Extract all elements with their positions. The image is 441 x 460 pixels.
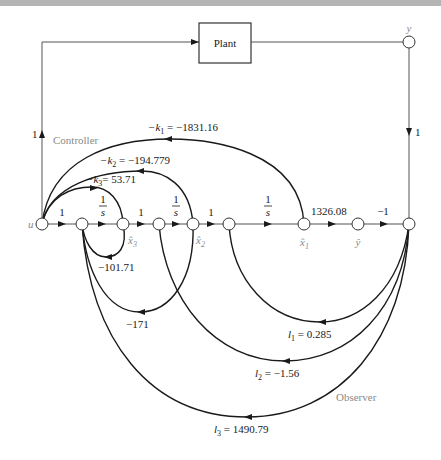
node-4 <box>153 218 165 230</box>
k3-label: −k3= 53.71 <box>86 173 136 188</box>
arrow-icon <box>191 39 199 45</box>
integrator-3: 1 s <box>264 193 272 218</box>
node-yhat <box>352 218 364 230</box>
l1-label: l1 = 0.285 <box>288 328 332 343</box>
node-u <box>36 218 48 230</box>
svg-text:s: s <box>266 206 270 218</box>
internal-feedback: −101.71 −171 <box>82 224 193 330</box>
node-x3 <box>117 218 129 230</box>
signal-flow-diagram: Plant 1 1 y −k1 = −1831.16 −k2 = −194.77… <box>0 0 441 460</box>
svg-text:1: 1 <box>173 193 179 205</box>
arrow-icon <box>90 185 98 191</box>
gain-yhat-sum: −1 <box>377 205 389 217</box>
u-label: u <box>28 218 34 230</box>
k1-label: −k1 = −1831.16 <box>148 121 218 136</box>
nodes <box>36 36 415 230</box>
arrow-icon <box>136 168 144 174</box>
gain-x2-n6: 1 <box>208 206 214 218</box>
arrow-icon <box>328 221 336 227</box>
x3-loop-label: −101.71 <box>98 261 134 273</box>
node-x1 <box>298 218 310 230</box>
arrow-icon <box>244 414 252 420</box>
arrow-icon <box>164 136 172 142</box>
gain-u-n2: 1 <box>59 206 65 218</box>
l1-arc <box>229 224 409 322</box>
right-gain-label: 1 <box>415 126 421 138</box>
node-2 <box>76 218 88 230</box>
arrow-icon <box>98 221 106 227</box>
controller-label: Controller <box>53 134 99 146</box>
gain-x3-n4: 1 <box>138 206 144 218</box>
svg-text:s: s <box>101 206 105 218</box>
arrow-icon <box>380 221 388 227</box>
svg-text:s: s <box>174 206 178 218</box>
l2-label: l2 = −1.56 <box>255 367 300 382</box>
l3-label: l3 = 1490.79 <box>214 423 269 438</box>
integrator-1: 1 s <box>99 193 107 218</box>
observer-arcs: l1 = 0.285 l2 = −1.56 l3 = 1490.79 Obser… <box>82 224 409 438</box>
observer-label: Observer <box>336 391 377 403</box>
gain-x1-yhat: 1326.08 <box>311 205 347 217</box>
yhat-label: ŷ <box>355 236 361 248</box>
arrow-icon <box>137 309 145 315</box>
svg-text:1: 1 <box>265 193 271 205</box>
arrow-icon <box>58 221 66 227</box>
k2-label: −k2 = −194.779 <box>100 154 170 169</box>
arrow-icon <box>318 319 326 325</box>
node-6 <box>223 218 235 230</box>
arrow-icon <box>39 130 45 138</box>
arrow-icon <box>172 221 180 227</box>
node-x2 <box>187 218 199 230</box>
arrow-icon <box>207 221 215 227</box>
x2-label: x̂2 <box>195 234 205 249</box>
svg-text:1: 1 <box>100 193 106 205</box>
x3-feedback-loop <box>82 224 124 257</box>
arrow-icon <box>406 128 412 136</box>
y-node-label: y <box>406 22 412 34</box>
plant-label: Plant <box>214 37 237 49</box>
arrow-icon <box>264 221 272 227</box>
arrow-icon <box>282 358 290 364</box>
node-sum <box>403 218 415 230</box>
plant-loop: Plant 1 1 y <box>32 22 421 224</box>
arrow-icon <box>137 221 145 227</box>
x3-label: x̂3 <box>127 234 137 249</box>
integrator-2: 1 s <box>172 193 180 218</box>
node-y <box>403 36 415 48</box>
x2-loop-label: −171 <box>126 318 149 330</box>
left-gain-label: 1 <box>32 128 38 140</box>
x1-label: x̂1 <box>299 236 309 251</box>
arrow-icon <box>104 254 112 260</box>
